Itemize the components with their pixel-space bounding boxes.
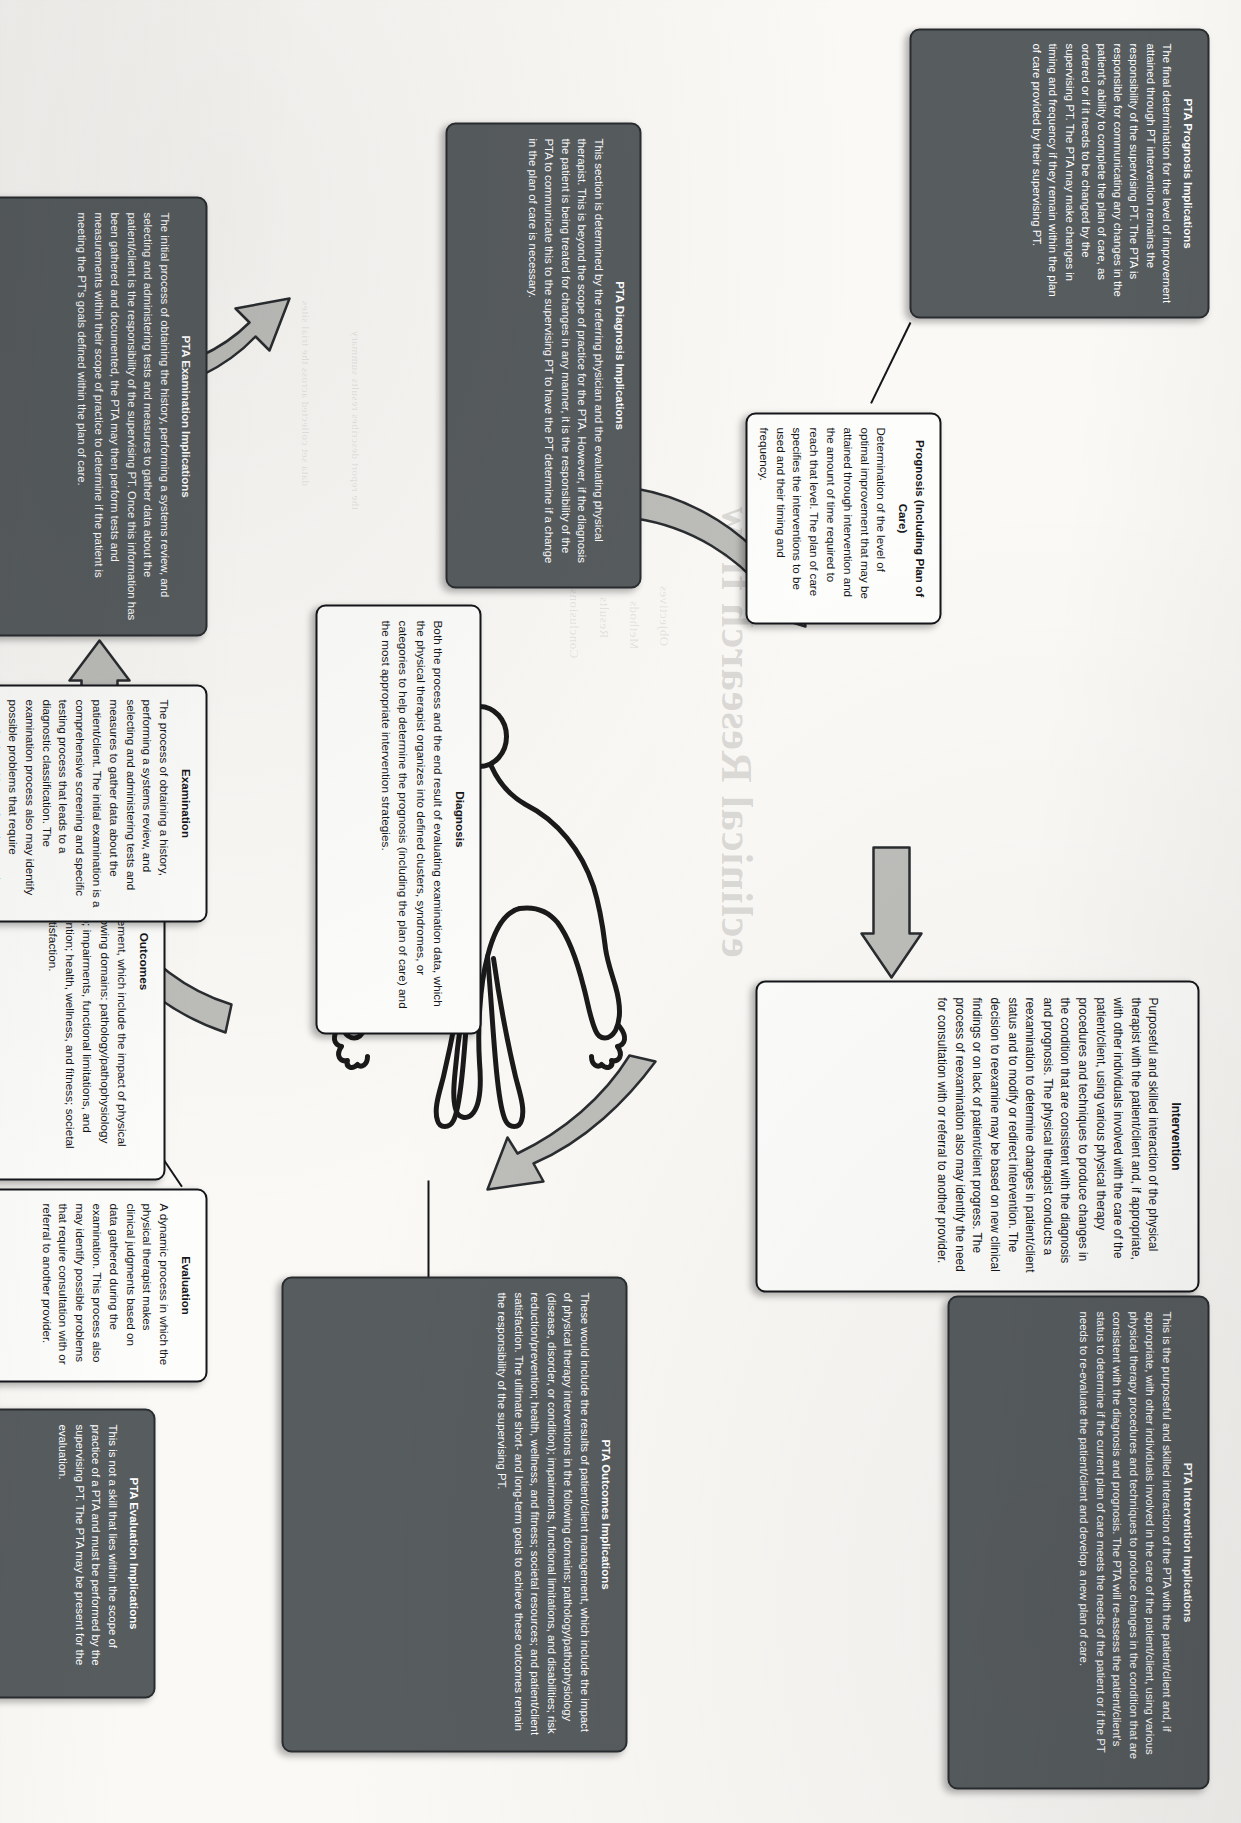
node-title: PTA Examination Implications [177, 212, 193, 620]
node-body: The process of obtaining a history, perf… [0, 699, 171, 907]
ghost-line-4: Conclusions [565, 588, 581, 658]
node-pta-evaluation-implications[interactable]: PTA Evaluation Implications This is not … [0, 1408, 155, 1698]
node-body: This is the purposeful and skilled inter… [1075, 1311, 1174, 1773]
node-pta-intervention-implications[interactable]: PTA Intervention Implications This is th… [947, 1295, 1209, 1789]
connector-outcomes [427, 1180, 429, 1278]
scanned-page-canvas: eclinical Research flow Objectives Metho… [0, 0, 1241, 1823]
node-prognosis[interactable]: Prognosis (Including Plan of Care) Deter… [745, 412, 941, 624]
node-body: Determination of the level of optimal im… [754, 427, 888, 609]
node-pta-prognosis-implications[interactable]: PTA Prognosis Implications The final det… [909, 28, 1209, 318]
node-title: Diagnosis [450, 620, 467, 1018]
node-title: PTA Outcomes Implications [597, 1292, 613, 1736]
ghost-line-3: Results [595, 596, 611, 638]
node-body: The initial process of obtaining the his… [73, 212, 172, 620]
connector-prognosis [870, 322, 911, 404]
arrow-prognosis-to-intervention [859, 845, 923, 981]
diagram-page: eclinical Research flow Objectives Metho… [0, 0, 1241, 1823]
node-pta-diagnosis-implications[interactable]: PTA Diagnosis Implications This section … [445, 122, 641, 588]
node-evaluation[interactable]: Evaluation A dynamic process in which th… [0, 1188, 207, 1382]
node-diagnosis[interactable]: Diagnosis Both the process and the end r… [315, 604, 481, 1034]
node-title: PTA Intervention Implications [1179, 1311, 1195, 1773]
node-pta-outcomes-implications[interactable]: PTA Outcomes Implications These would in… [281, 1276, 627, 1752]
node-pta-examination-implications[interactable]: PTA Examination Implications The initial… [0, 196, 207, 636]
node-title: PTA Evaluation Implications [125, 1424, 141, 1682]
node-body: Both the process and the end result of e… [376, 620, 445, 1018]
node-intervention[interactable]: Intervention Purposeful and skilled inte… [755, 980, 1199, 1292]
node-title: Examination [176, 699, 193, 907]
node-body: A dynamic process in which the physical … [37, 1203, 171, 1367]
node-body: Purposeful and skilled interaction of th… [931, 997, 1160, 1275]
node-title: Prognosis (Including Plan of Care) [893, 427, 927, 609]
node-title: PTA Diagnosis Implications [611, 138, 627, 572]
node-title: Intervention [1165, 997, 1183, 1275]
node-body: This section is determined by the referr… [523, 138, 605, 572]
node-body: These would include the results of patie… [493, 1292, 592, 1736]
node-title: PTA Prognosis Implications [1179, 43, 1195, 303]
node-body: This is not a skill that lies within the… [54, 1424, 120, 1682]
node-body: The final determination for the level of… [1028, 43, 1174, 303]
arrow-intervention-to-outcomes [481, 1055, 661, 1205]
node-examination[interactable]: Examination The process of obtaining a h… [0, 684, 207, 922]
node-title: Evaluation [176, 1203, 193, 1367]
ghost-line-6: the report describes results summary [349, 330, 361, 509]
